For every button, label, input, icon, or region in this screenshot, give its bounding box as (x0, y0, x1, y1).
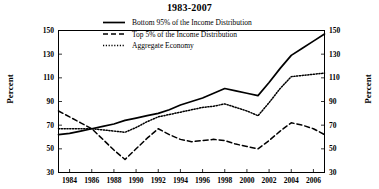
x-tick-label: 1986 (84, 176, 99, 185)
plot-area: 30507090110130150 30507090110130150 1984… (0, 0, 379, 189)
x-tick-labels: 1984198619881990199219941996199820002002… (62, 176, 321, 185)
y-tick-label-right: 50 (329, 144, 337, 153)
y-tick-label-right: 30 (329, 168, 337, 177)
x-tick-label: 2004 (284, 176, 299, 185)
x-tick-label: 1996 (195, 176, 210, 185)
y-tick-label-left: 150 (43, 26, 55, 35)
y-tick-label-left: 30 (47, 168, 55, 177)
y-tick-label-left: 70 (47, 121, 55, 130)
y-tick-label-right: 130 (329, 50, 341, 59)
series-line-2 (59, 73, 325, 132)
y-tick-labels-left: 30507090110130150 (43, 26, 55, 177)
y-tick-label-left: 90 (47, 97, 55, 106)
y-ticks-right (321, 31, 325, 173)
chart-figure: 1983-2007 Percent Percent 30507090110130… (0, 0, 379, 189)
y-tick-label-right: 150 (329, 26, 341, 35)
series-line-1 (59, 111, 325, 160)
y-tick-label-right: 110 (329, 73, 340, 82)
x-ticks (70, 169, 314, 173)
x-tick-label: 1994 (173, 176, 188, 185)
x-tick-label: 2006 (306, 176, 321, 185)
x-tick-label: 1990 (129, 176, 144, 185)
y-ticks-left (59, 31, 63, 173)
y-tick-label-left: 50 (47, 144, 55, 153)
y-tick-label-right: 70 (329, 121, 337, 130)
x-tick-label: 2002 (262, 176, 277, 185)
x-tick-label: 1988 (106, 176, 121, 185)
x-tick-label: 2000 (239, 176, 254, 185)
y-tick-label-left: 110 (43, 73, 54, 82)
x-tick-label: 1998 (217, 176, 232, 185)
legend-label-1: Top 5% of the Income Distribution (132, 30, 237, 39)
chart-legend: Bottom 95% of the Income DistributionTop… (103, 18, 252, 50)
legend-label-0: Bottom 95% of the Income Distribution (132, 18, 252, 27)
x-tick-label: 1992 (151, 176, 166, 185)
series-lines (59, 34, 325, 159)
x-tick-label: 1984 (62, 176, 77, 185)
y-tick-label-right: 90 (329, 97, 337, 106)
y-tick-label-left: 130 (43, 50, 55, 59)
y-tick-labels-right: 30507090110130150 (329, 26, 341, 177)
legend-label-2: Aggregate Economy (132, 41, 194, 50)
